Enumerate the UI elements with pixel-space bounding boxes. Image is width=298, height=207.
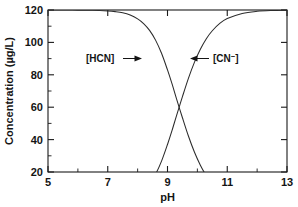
x-ticklabel-4: 13 — [281, 176, 293, 188]
y-axis-title: Concentration (µg/L) — [3, 37, 15, 145]
annotation-hcn-label: [HCN] — [86, 53, 114, 64]
x-ticklabel-0: 5 — [45, 176, 51, 188]
y-ticklabel-5: 120 — [25, 4, 43, 16]
annotation-cn: [CN−] — [190, 52, 239, 65]
x-axis-ticks — [48, 10, 287, 172]
y-ticklabel-4: 100 — [25, 36, 43, 48]
x-ticklabel-3: 11 — [221, 176, 233, 188]
annotation-cn-label: [CN−] — [213, 52, 239, 65]
chart-figure: 5 7 9 11 13 20 40 60 80 100 120 pH Conce… — [0, 0, 298, 207]
plot-frame — [48, 10, 287, 172]
y-ticklabel-2: 60 — [31, 101, 43, 113]
annotation-cn-label-close: ] — [235, 53, 238, 64]
y-ticklabel-3: 80 — [31, 69, 43, 81]
annotation-hcn: [HCN] — [86, 53, 142, 64]
x-axis-title: pH — [160, 191, 175, 203]
hcn-cn-speciation-chart: 5 7 9 11 13 20 40 60 80 100 120 pH Conce… — [0, 0, 298, 207]
y-ticklabel-1: 40 — [31, 134, 43, 146]
annotation-cn-label-text: [CN — [213, 53, 231, 64]
annotation-hcn-arrowhead — [135, 56, 143, 62]
x-ticklabel-2: 9 — [164, 176, 170, 188]
y-ticklabel-0: 20 — [31, 166, 43, 178]
y-axis-ticks — [48, 10, 287, 172]
x-ticklabel-1: 7 — [105, 176, 111, 188]
